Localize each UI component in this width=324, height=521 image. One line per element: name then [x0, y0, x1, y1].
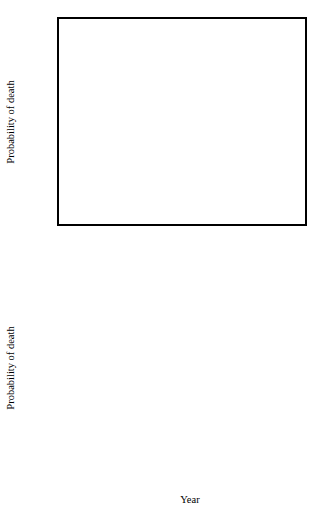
panel-b-x-axis-title: Year [180, 494, 200, 505]
panel-b-annotations: B [0, 258, 8, 260]
panel-a-frame [58, 18, 306, 225]
panel-a-y-axis-title: Probability of death [5, 80, 16, 164]
figure-container: A male female Probability of death B Pro… [0, 0, 324, 521]
panel-a-axes [58, 18, 306, 225]
chart-panel-a: A male female Probability of death [0, 0, 324, 258]
panel-b-y-axis-title: Probability of death [5, 326, 16, 410]
chart-panel-b: B Probability of death Year [0, 258, 324, 521]
panel-a-svg: A male female Probability of death [0, 0, 324, 258]
panel-b-letter: B [0, 258, 8, 260]
panel-a-annotations: A male female [0, 0, 23, 2]
panel-b-svg: B Probability of death Year [0, 258, 324, 521]
series-label-female: female [0, 0, 23, 2]
